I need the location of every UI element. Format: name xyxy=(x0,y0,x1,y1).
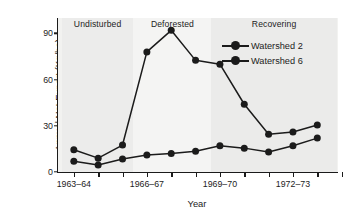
data-point xyxy=(143,48,150,55)
chart-legend: Watershed 2Watershed 6 xyxy=(222,39,303,67)
data-point xyxy=(95,155,102,162)
data-point xyxy=(241,101,248,108)
legend-label: Watershed 6 xyxy=(251,56,303,66)
y-tick-label: 0 xyxy=(48,167,53,177)
data-point xyxy=(70,158,77,165)
data-point xyxy=(216,142,223,149)
legend-marker-icon xyxy=(222,55,249,66)
series-watershed-2 xyxy=(70,135,320,169)
x-tick-label: 1972–73 xyxy=(276,179,310,189)
data-point xyxy=(289,142,296,149)
x-tick-mark xyxy=(220,172,221,177)
chart-figure: Annual Net Export (Kg/ha) UndisturbedDef… xyxy=(0,0,354,223)
x-tick-mark xyxy=(147,172,148,177)
data-point xyxy=(192,148,199,155)
legend-item: Watershed 6 xyxy=(222,54,303,67)
y-tick-label: 60 xyxy=(43,75,53,85)
x-tick-mark xyxy=(171,172,172,177)
x-tick-mark xyxy=(196,172,197,177)
legend-item: Watershed 2 xyxy=(222,39,303,52)
x-tick-mark xyxy=(317,172,318,177)
data-point xyxy=(119,142,126,149)
y-tick-label: 90 xyxy=(43,28,53,38)
x-tick-label: 1969–70 xyxy=(203,179,237,189)
data-point xyxy=(192,57,199,64)
data-point xyxy=(241,145,248,152)
x-tick-mark xyxy=(123,172,124,177)
x-tick-label: 1966–67 xyxy=(130,179,164,189)
x-tick-mark xyxy=(98,172,99,177)
x-tick-mark xyxy=(269,172,270,177)
data-point xyxy=(265,148,272,155)
legend-marker-icon xyxy=(222,40,249,51)
data-point xyxy=(314,135,321,142)
data-point xyxy=(119,155,126,162)
data-point xyxy=(289,128,296,135)
data-point xyxy=(314,122,321,129)
data-point xyxy=(143,152,150,159)
data-point xyxy=(70,146,77,153)
x-tick-mark xyxy=(293,172,294,177)
data-point xyxy=(95,162,102,169)
x-tick-mark xyxy=(244,172,245,177)
legend-label: Watershed 2 xyxy=(251,41,303,51)
y-tick-label: 30 xyxy=(43,121,53,131)
x-tick-mark xyxy=(74,172,75,177)
x-axis-label: Year xyxy=(57,198,337,209)
data-point xyxy=(265,131,272,138)
x-tick-label: 1963–64 xyxy=(57,179,91,189)
data-point xyxy=(168,150,175,157)
data-point xyxy=(168,27,175,34)
x-tick-mark xyxy=(342,172,343,177)
